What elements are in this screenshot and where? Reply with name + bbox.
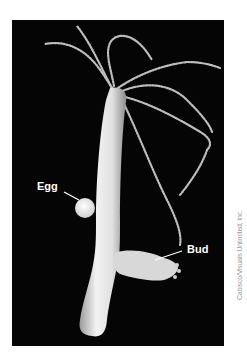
hydra-egg xyxy=(75,198,95,218)
bud-label: Bud xyxy=(187,243,208,255)
egg-leader-line xyxy=(64,192,79,200)
egg-label: Egg xyxy=(37,180,58,192)
tentacles xyxy=(45,26,220,245)
hydra-bud xyxy=(113,250,178,280)
photo-credit: Cabisco/Visuals Unlimited, Inc. xyxy=(236,210,243,300)
bud-leader-line xyxy=(155,251,182,260)
